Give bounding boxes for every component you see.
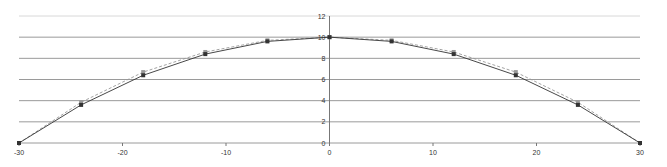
- data-marker: [141, 73, 145, 77]
- y-tick-label: 8: [322, 55, 326, 62]
- data-marker: [576, 103, 580, 107]
- data-marker: [17, 141, 21, 145]
- y-tick-label: 2: [322, 118, 326, 125]
- y-tick-label: 10: [318, 34, 326, 41]
- x-tick-label: -10: [221, 149, 231, 156]
- x-tick-label: 20: [533, 149, 541, 156]
- x-tick-label: -30: [14, 149, 24, 156]
- data-marker: [79, 103, 83, 107]
- y-tick-label: 12: [318, 13, 326, 20]
- data-marker: [265, 39, 269, 43]
- data-marker: [390, 39, 394, 43]
- y-tick-label: 0: [322, 140, 326, 147]
- x-tick-label: 10: [429, 149, 437, 156]
- parabola-line-chart: 024681012-30-20-100102030: [0, 0, 667, 167]
- data-marker: [203, 52, 207, 56]
- data-marker: [328, 35, 332, 39]
- tick-labels: 024681012-30-20-100102030: [14, 13, 644, 157]
- data-marker: [638, 141, 642, 145]
- data-marker: [452, 52, 456, 56]
- y-tick-label: 4: [322, 97, 326, 104]
- x-tick-label: 30: [636, 149, 644, 156]
- x-tick-label: 0: [328, 149, 332, 156]
- y-tick-label: 6: [322, 76, 326, 83]
- data-marker: [514, 73, 518, 77]
- x-tick-label: -20: [117, 149, 127, 156]
